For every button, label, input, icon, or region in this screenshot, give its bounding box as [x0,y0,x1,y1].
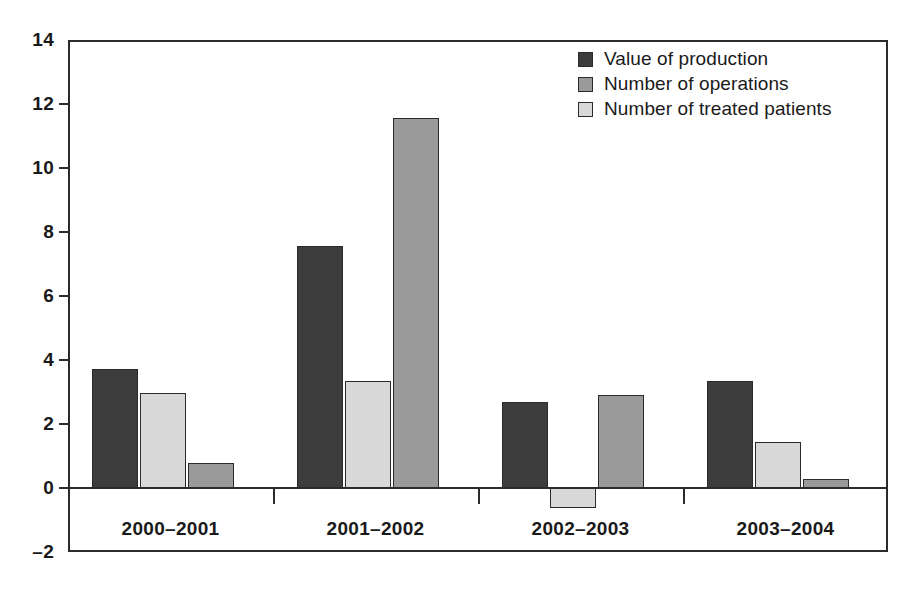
bar [502,402,548,488]
bar [550,488,596,508]
x-axis-category-label: 2002–2003 [478,518,683,540]
legend-label: Number of treated patients [604,98,832,120]
y-axis-tick-mark [59,359,68,361]
y-axis-tick-mark [59,167,68,169]
legend-label: Number of operations [604,73,789,95]
legend-swatch-icon [578,102,593,117]
legend-label: Value of production [604,48,768,70]
x-axis-category-label: 2001–2002 [273,518,478,540]
chart-legend: Value of productionNumber of operationsN… [578,48,832,123]
bar [755,442,801,488]
legend-swatch-icon [578,52,593,67]
y-axis-tick-label: 14 [32,29,54,51]
legend-item: Value of production [578,48,832,70]
bar [598,395,644,488]
y-axis-tick-mark [59,103,68,105]
bar [707,381,753,488]
y-axis-tick-label: 0 [43,477,54,499]
bar [92,369,138,488]
bar [188,463,234,488]
y-axis-tick-label: –2 [32,541,54,563]
legend-swatch-icon [578,77,593,92]
x-axis-group-tick [683,488,685,504]
x-axis-category-label: 2000–2001 [68,518,273,540]
y-axis-tick-label: 4 [43,349,54,371]
bar [140,393,186,488]
bar [345,381,391,488]
legend-item: Number of treated patients [578,98,832,120]
y-axis-tick-label: 6 [43,285,54,307]
y-axis-tick-label: 2 [43,413,54,435]
y-axis-tick-label: 12 [32,93,54,115]
y-axis-tick-mark [59,487,68,489]
x-axis-category-label: 2003–2004 [683,518,888,540]
legend-item: Number of operations [578,73,832,95]
bar [803,479,849,488]
bar-chart: 14121086420–2 2000–20012001–20022002–200… [0,0,916,594]
x-axis-group-tick [478,488,480,504]
x-axis-group-tick [273,488,275,504]
bar [297,246,343,488]
bar [393,118,439,488]
y-axis-tick-mark [59,295,68,297]
y-axis-tick-mark [59,231,68,233]
y-axis-tick-mark [59,423,68,425]
y-axis-tick-label: 8 [43,221,54,243]
y-axis-tick-label: 10 [32,157,54,179]
